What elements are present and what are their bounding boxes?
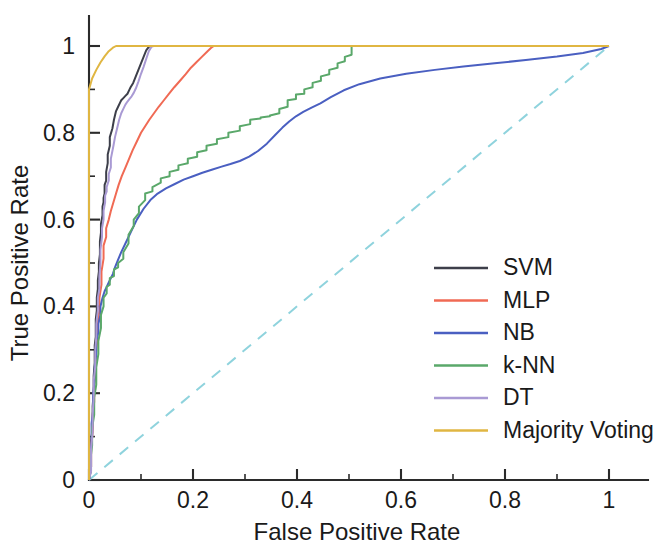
y-tick-label: 0.6 xyxy=(43,207,75,233)
x-tick-label: 0.2 xyxy=(177,487,209,513)
y-tick-label: 0.4 xyxy=(43,293,75,319)
legend-label-dt: DT xyxy=(503,384,534,410)
y-tick-label: 0.2 xyxy=(43,380,75,406)
roc-curve-figure: 00.20.40.60.8100.20.40.60.81 SVMMLPNBk-N… xyxy=(0,0,662,552)
x-tick-label: 0.4 xyxy=(281,487,313,513)
y-tick-label: 0 xyxy=(62,467,75,493)
x-tick-label: 1 xyxy=(603,487,616,513)
x-tick-label: 0.8 xyxy=(489,487,521,513)
y-tick-label: 0.8 xyxy=(43,120,75,146)
y-tick-label: 1 xyxy=(62,33,75,59)
x-axis-title: False Positive Rate xyxy=(254,518,461,545)
legend-label-majority-voting: Majority Voting xyxy=(503,417,654,443)
legend-label-nb: NB xyxy=(503,319,535,345)
legend-group: SVMMLPNBk-NNDTMajority Voting xyxy=(434,254,654,443)
y-axis-title: True Positive Rate xyxy=(6,165,33,362)
legend-label-mlp: MLP xyxy=(503,287,550,313)
x-tick-label: 0.6 xyxy=(385,487,417,513)
x-tick-label: 0 xyxy=(83,487,96,513)
legend-label-svm: SVM xyxy=(503,254,553,280)
roc-plot-svg: 00.20.40.60.8100.20.40.60.81 SVMMLPNBk-N… xyxy=(0,0,662,552)
legend-label-k-nn: k-NN xyxy=(503,352,555,378)
